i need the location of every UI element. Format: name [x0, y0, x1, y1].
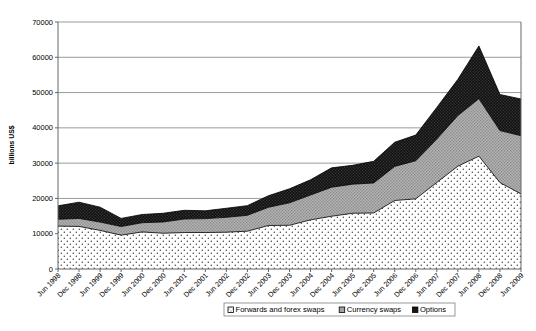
- legend-label: Forwards and forex swaps: [236, 305, 325, 314]
- y-tick-label: 60000: [32, 53, 53, 62]
- stacked-area-chart: 010000200003000040000500006000070000 Jun…: [0, 0, 536, 331]
- y-axis-title: billions US$: [8, 125, 16, 164]
- chart-legend: Forwards and forex swapsCurrency swapsOp…: [224, 303, 455, 316]
- y-axis-ticks: 010000200003000040000500006000070000: [32, 18, 58, 274]
- y-tick-label: 40000: [32, 123, 53, 132]
- x-axis-ticks: Jun 1998Dec 1998Jun 1999Dec 1999Jun 2000…: [35, 269, 525, 299]
- legend-label: Options: [420, 305, 446, 314]
- legend-swatch: [228, 307, 234, 313]
- legend-swatch: [412, 307, 418, 313]
- y-tick-label: 70000: [32, 18, 53, 27]
- y-tick-label: 0: [49, 265, 53, 274]
- legend-swatch: [339, 307, 345, 313]
- y-tick-label: 50000: [32, 88, 53, 97]
- y-tick-label: 30000: [32, 159, 53, 168]
- x-tick-label: Jun 2009: [498, 271, 525, 298]
- legend-label: Currency swaps: [347, 305, 402, 314]
- chart-container: 010000200003000040000500006000070000 Jun…: [0, 0, 536, 331]
- y-tick-label: 20000: [32, 194, 53, 203]
- y-tick-label: 10000: [32, 229, 53, 238]
